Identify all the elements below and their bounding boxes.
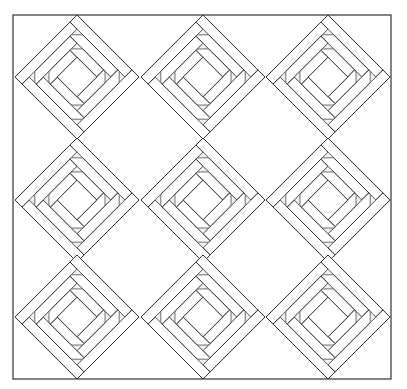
quilt-block-r3-c1 [15,255,139,379]
quilt-block-r1-c3 [266,15,390,139]
quilt-block-r3-c2 [141,255,265,379]
quilt-block-r2-c1 [15,138,139,262]
quilt-block-r2-c2 [141,138,265,262]
quilt-block-r3-c3 [266,255,390,379]
block-grid [15,15,390,379]
quilt-block-r1-c1 [15,15,139,139]
quilt-block-r2-c3 [266,138,390,262]
quilt-block-r1-c2 [141,15,265,139]
quilt-diagram [0,0,407,389]
